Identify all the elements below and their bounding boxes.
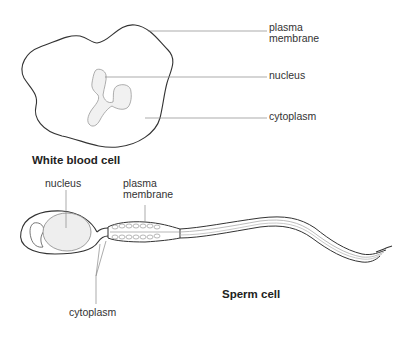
sperm-cytoplasm-leader-2: [96, 241, 106, 276]
wbc-label-cytoplasm: cytoplasm: [269, 111, 316, 122]
white-blood-cell-illustration: [22, 25, 267, 147]
sperm-label-plasma-membrane: plasma membrane: [123, 178, 173, 200]
sperm-cell-illustration: [21, 190, 392, 304]
sperm-cytoplasm-leader-3: [96, 244, 100, 276]
sperm-label-cytoplasm: cytoplasm: [69, 307, 116, 318]
diagram-canvas: [0, 0, 412, 339]
wbc-label-plasma-membrane: plasma membrane: [269, 22, 319, 44]
wbc-label-nucleus: nucleus: [269, 70, 305, 81]
sperm-acrosome: [30, 223, 44, 247]
sperm-label-nucleus: nucleus: [45, 178, 81, 189]
sperm-title: Sperm cell: [222, 288, 280, 300]
wbc-label-plasma-line2: membrane: [269, 33, 319, 44]
wbc-title: White blood cell: [32, 154, 120, 166]
sperm-tail: [180, 217, 386, 255]
sperm-nucleus: [43, 213, 91, 251]
sperm-label-plasma-line2: membrane: [123, 189, 173, 200]
